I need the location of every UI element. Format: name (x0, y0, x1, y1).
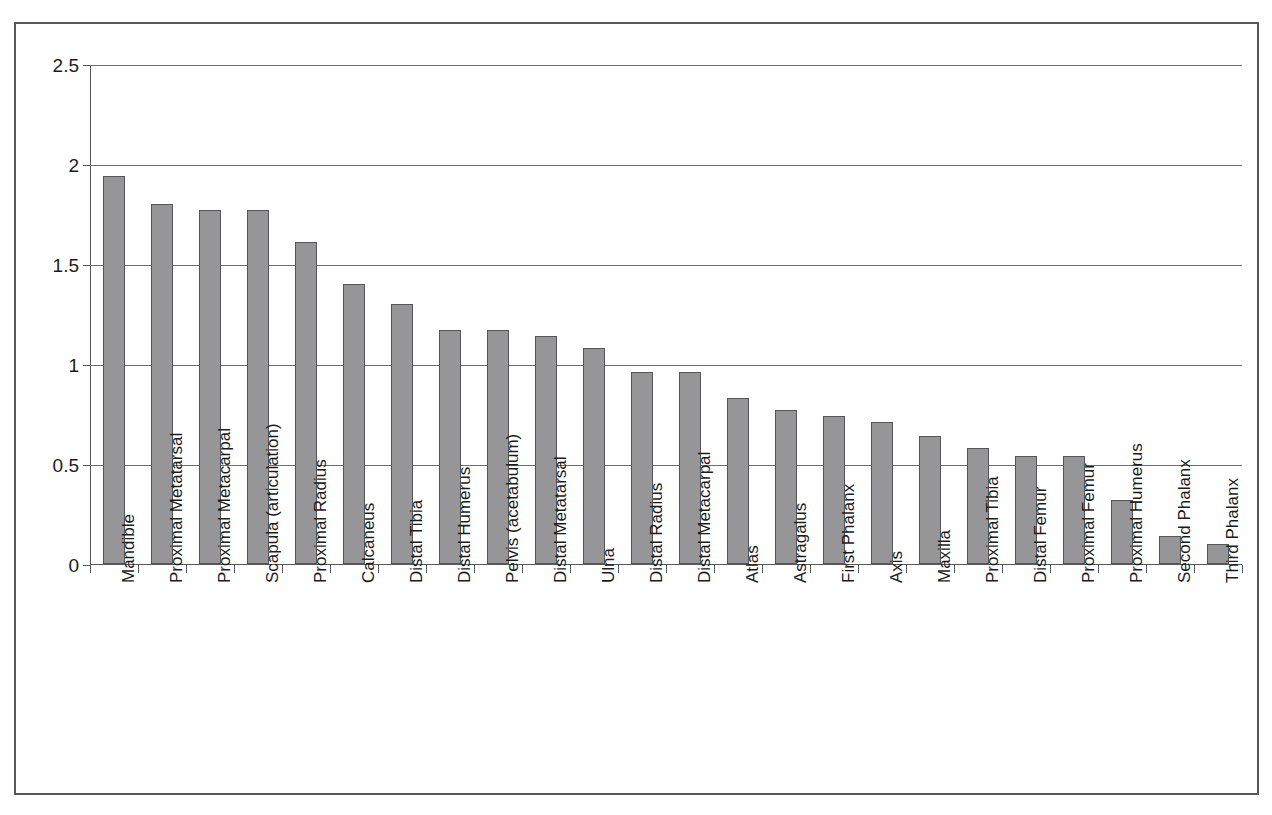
y-axis-line (90, 65, 91, 565)
bar (871, 422, 893, 564)
x-category-label: Ulna (600, 548, 617, 583)
y-tick-label: 0 (68, 556, 79, 575)
gridline (90, 165, 1242, 166)
x-category-label: Axis (888, 551, 905, 583)
y-tick-label: 2 (68, 156, 79, 175)
x-category-label: Proximal Tibia (984, 476, 1001, 583)
x-category-label: Astragalus (792, 503, 809, 583)
gridline (90, 65, 1242, 66)
x-category-label: Distal Metacarpal (696, 452, 713, 583)
x-category-label: Mandible (120, 514, 137, 583)
x-category-label: Proximal Femur (1080, 463, 1097, 583)
y-tick-mark (83, 165, 90, 166)
x-category-label: Distal Humerus (456, 467, 473, 583)
x-category-label: Pelvis (acetabulum) (504, 434, 521, 583)
y-tick-label: 1.5 (53, 256, 79, 275)
y-tick-label: 1 (68, 356, 79, 375)
x-category-label: Scapula (articulation) (264, 423, 281, 583)
category-labels: MandibleProximal MetatarsalProximal Meta… (90, 565, 1242, 795)
y-tick-label: 0.5 (53, 456, 79, 475)
y-tick-mark (83, 365, 90, 366)
x-category-label: Third Phalanx (1224, 478, 1241, 583)
x-category-label: Calcaneus (360, 503, 377, 583)
y-tick-mark (83, 265, 90, 266)
y-tick-mark (83, 465, 90, 466)
bar (103, 176, 125, 564)
x-category-label: Distal Femur (1032, 487, 1049, 583)
x-category-label: Proximal Metatarsal (168, 433, 185, 583)
x-category-label: Atlas (744, 545, 761, 583)
x-category-label: Distal Metatarsal (552, 456, 569, 583)
x-tick-mark (1242, 565, 1243, 573)
chart-frame: 00.511.522.5 MandibleProximal Metatarsal… (14, 22, 1259, 795)
x-category-label: Distal Tibia (408, 500, 425, 583)
figure-canvas: 00.511.522.5 MandibleProximal Metatarsal… (0, 0, 1272, 815)
x-category-label: Proximal Humerus (1128, 443, 1145, 583)
x-category-label: Distal Radius (648, 483, 665, 583)
x-category-label: Proximal Metacarpal (216, 428, 233, 583)
x-category-label: Second Phalanx (1176, 459, 1193, 583)
y-tick-mark (83, 65, 90, 66)
bar (727, 398, 749, 564)
y-tick-label: 2.5 (53, 56, 79, 75)
bar (583, 348, 605, 564)
x-category-label: Proximal Radius (312, 459, 329, 583)
y-tick-mark (83, 565, 90, 566)
x-category-label: Maxilla (936, 530, 953, 583)
x-category-label: First Phalanx (840, 484, 857, 583)
